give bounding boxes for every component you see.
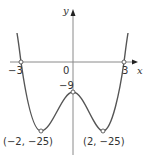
y-axis-arrow-icon [71,9,76,16]
point-min-right [101,129,105,133]
point-x-intercept-left [19,60,23,64]
point-min-left [39,129,43,133]
min-right-label: (2, −25) [83,137,125,147]
y-intercept-label: −9 [59,81,74,91]
tick-label-pos3: 3 [122,66,128,76]
tick-label-neg3: −3 [8,66,23,76]
x-axis-label: x [137,66,143,76]
function-graph [0,0,150,158]
y-axis-label: y [63,6,69,16]
point-x-intercept-right [122,60,126,64]
min-left-label: (−2, −25) [3,137,53,147]
tick-label-origin: 0 [63,66,69,76]
x-axis-arrow-icon [132,60,138,65]
